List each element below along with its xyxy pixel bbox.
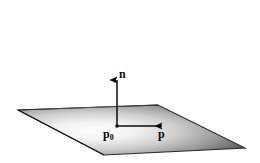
plane-normal-vector-diagram: n p0 p: [0, 0, 260, 163]
base-point-marker: [115, 124, 119, 128]
diagram-canvas: [0, 0, 260, 163]
normal-vector-label: n: [119, 68, 126, 80]
base-point-label-subscript: 0: [110, 133, 114, 142]
plane-group: [18, 105, 245, 155]
point-vector-label: p: [158, 128, 165, 140]
base-point-label: p0: [103, 128, 114, 142]
shaded-plane-parallelogram: [18, 105, 245, 155]
base-point-label-letter: p: [103, 127, 110, 141]
